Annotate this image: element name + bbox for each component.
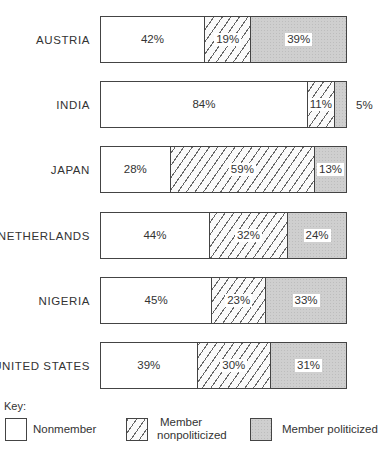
stacked-bar: 39% 30% 31%: [100, 342, 347, 389]
country-label: INDIA: [56, 81, 90, 129]
segment-value: 31%: [295, 359, 322, 372]
segment-nonmember: 28%: [101, 147, 170, 192]
segment-member-politicized: 33%: [265, 278, 346, 323]
segment-value: 28%: [122, 163, 149, 176]
segment-value: 59%: [229, 163, 256, 176]
bar-row-nigeria: NIGERIA 45% 23% 33%: [0, 277, 379, 325]
segment-value: 39%: [285, 33, 312, 46]
legend-label-line: Member: [157, 416, 227, 429]
segment-member-politicized: [334, 82, 346, 127]
legend-title: Key:: [4, 400, 26, 412]
country-label: NETHERLANDS: [0, 212, 90, 260]
legend-label-line: Nonmember: [33, 423, 96, 435]
stacked-bar: 45% 23% 33%: [100, 277, 347, 324]
legend-label-nonmember: Nonmember: [33, 423, 96, 436]
segment-member-politicized: 24%: [287, 213, 346, 258]
segment-value: 33%: [293, 294, 320, 307]
country-label: UNITED STATES: [0, 342, 90, 390]
segment-value: 24%: [304, 229, 331, 242]
segment-value: 44%: [141, 229, 168, 242]
legend-swatch-nonmember: [5, 418, 27, 441]
segment-nonmember: 84%: [101, 82, 307, 127]
segment-member-nonpoliticized: 19%: [204, 17, 251, 62]
segment-nonmember: 45%: [101, 278, 211, 323]
segment-nonmember: 44%: [101, 213, 209, 258]
segment-member-politicized: 13%: [314, 147, 346, 192]
segment-member-nonpoliticized: 32%: [209, 213, 287, 258]
stacked-bar: 28% 59% 13%: [100, 146, 347, 193]
bar-row-japan: JAPAN 28% 59% 13%: [0, 146, 379, 194]
legend-label-member-politicized: Member politicized: [282, 423, 378, 436]
segment-member-nonpoliticized: 11%: [307, 82, 334, 127]
bar-row-india: INDIA 84% 11% 5%: [0, 81, 379, 129]
bar-row-austria: AUSTRIA 42% 19% 39%: [0, 16, 379, 64]
segment-value: 11%: [308, 98, 334, 111]
outside-value-label: 5%: [356, 81, 373, 129]
legend-label-line: Member politicized: [282, 423, 378, 435]
stacked-bar: 42% 19% 39%: [100, 16, 347, 63]
segment-nonmember: 39%: [101, 343, 197, 388]
legend-label-member-nonpoliticized: Member nonpoliticized: [157, 416, 227, 442]
country-label: JAPAN: [51, 146, 90, 194]
segment-value: 84%: [190, 98, 217, 111]
segment-value: 30%: [220, 359, 247, 372]
segment-value: 13%: [317, 163, 344, 176]
segment-value: 39%: [135, 359, 162, 372]
stacked-bar: 44% 32% 24%: [100, 212, 347, 259]
legend-swatch-member-politicized: [250, 418, 272, 441]
segment-member-nonpoliticized: 23%: [211, 278, 265, 323]
segment-value: 19%: [214, 33, 241, 46]
segment-value: 42%: [139, 33, 166, 46]
legend-label-line: nonpoliticized: [157, 429, 227, 442]
segment-value: 45%: [143, 294, 170, 307]
bar-row-united-states: UNITED STATES 39% 30% 31%: [0, 342, 379, 390]
legend-swatch-member-nonpoliticized: [126, 418, 148, 441]
segment-member-nonpoliticized: 30%: [197, 343, 271, 388]
segment-value: 23%: [225, 294, 252, 307]
segment-nonmember: 42%: [101, 17, 204, 62]
bar-row-netherlands: NETHERLANDS 44% 32% 24%: [0, 212, 379, 260]
country-label: AUSTRIA: [36, 16, 90, 64]
segment-member-nonpoliticized: 59%: [170, 147, 315, 192]
segment-member-politicized: 39%: [250, 17, 346, 62]
segment-value: 32%: [235, 229, 262, 242]
segment-member-politicized: 31%: [270, 343, 346, 388]
country-label: NIGERIA: [39, 277, 91, 325]
stacked-bar: 84% 11%: [100, 81, 347, 128]
